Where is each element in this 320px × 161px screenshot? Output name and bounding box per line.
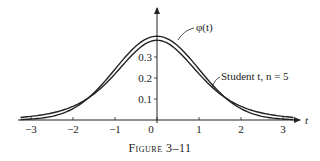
x-tick-label: −1 xyxy=(109,123,121,135)
y-tick-label: 0.2 xyxy=(138,72,152,84)
x-tick-label: −3 xyxy=(25,123,37,135)
caption-word: Figure xyxy=(128,141,162,155)
x-tick-label: 1 xyxy=(196,123,202,135)
normal-annotation: φ(t) xyxy=(196,21,213,34)
student-annotation: Student t, n = 5 xyxy=(221,70,289,82)
y-tick-label: 0.3 xyxy=(138,51,152,63)
figure-caption: Figure 3–11 xyxy=(0,141,320,156)
y-ticks: 0.10.20.3 xyxy=(138,51,157,105)
normal-leader-line xyxy=(178,28,194,40)
x-tick-label: −2 xyxy=(67,123,79,135)
y-tick-label: 0.1 xyxy=(138,93,152,105)
x-axis-label: t xyxy=(305,114,309,126)
density-chart: −3−2−10123 0.10.20.3 t φ(t) Student t, n… xyxy=(0,0,320,140)
x-tick-label: 2 xyxy=(238,123,244,135)
caption-number: 3–11 xyxy=(166,141,192,155)
x-tick-label: 3 xyxy=(280,123,286,135)
x-tick-label: 0 xyxy=(148,123,154,135)
